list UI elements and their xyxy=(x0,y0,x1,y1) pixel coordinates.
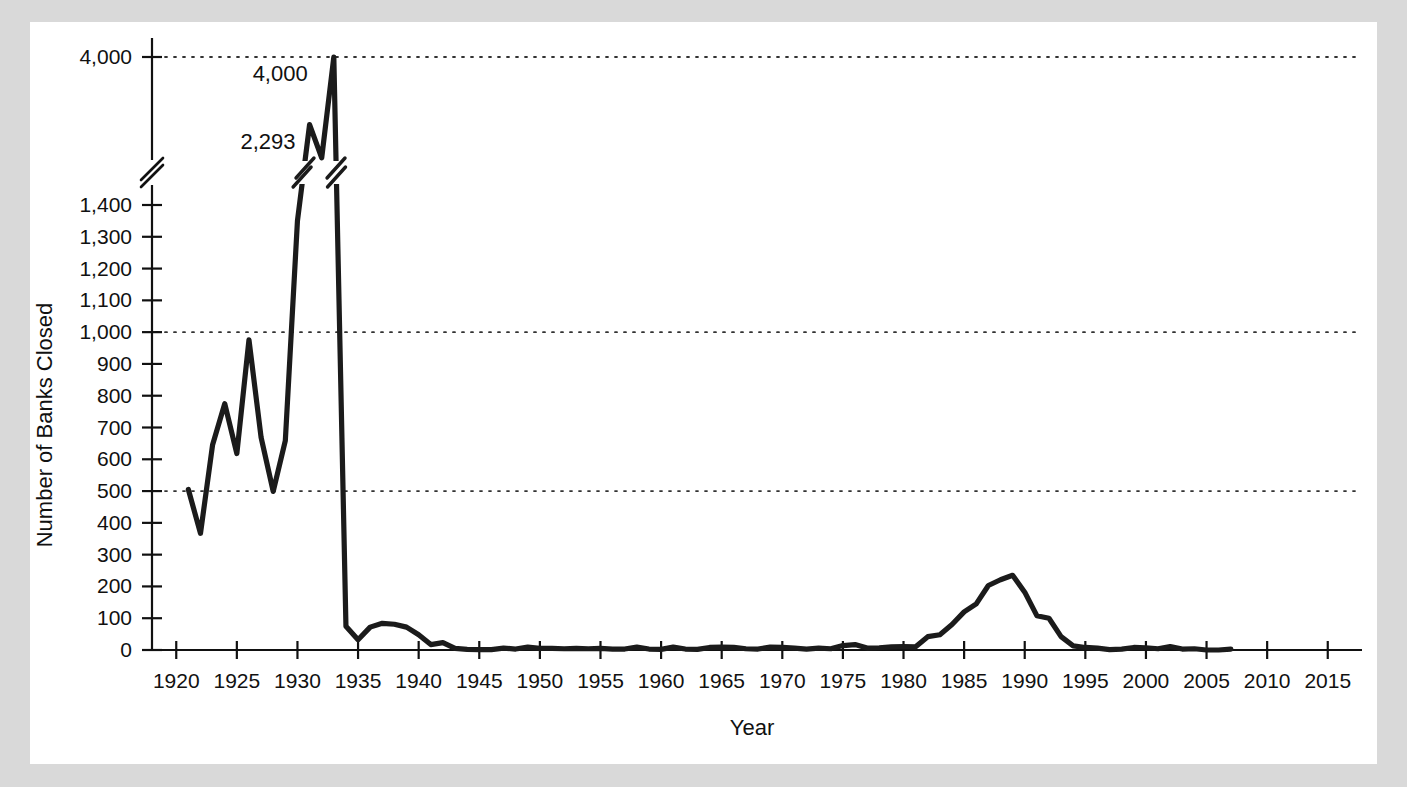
y-tick-label-1200: 1,200 xyxy=(79,257,132,280)
y-tick-label-300: 300 xyxy=(97,543,132,566)
x-tick-label-1950: 1950 xyxy=(517,669,564,692)
x-tick-label-1960: 1960 xyxy=(638,669,685,692)
data-annotations: 4,0002,293 xyxy=(241,61,308,154)
banks-closed-line xyxy=(188,57,1230,650)
annotation-4000: 4,000 xyxy=(253,61,308,86)
y-tick-label-1300: 1,300 xyxy=(79,225,132,248)
x-tick-label-2000: 2000 xyxy=(1123,669,1170,692)
x-tick-label-1985: 1985 xyxy=(941,669,988,692)
x-tick-label-2015: 2015 xyxy=(1304,669,1351,692)
x-tick-label-2010: 2010 xyxy=(1244,669,1291,692)
y-tick-label-100: 100 xyxy=(97,606,132,629)
x-tick-label-2005: 2005 xyxy=(1183,669,1230,692)
figure-container: 01002003004005006007008009001,0001,1001,… xyxy=(0,0,1407,787)
x-tick-label-1970: 1970 xyxy=(759,669,806,692)
bank-closures-line-chart: 01002003004005006007008009001,0001,1001,… xyxy=(0,0,1407,787)
y-axis-title: Number of Banks Closed xyxy=(32,303,57,548)
y-tick-label-500: 500 xyxy=(97,479,132,502)
data-series xyxy=(153,57,1363,650)
x-tick-label-1980: 1980 xyxy=(880,669,927,692)
x-tick-label-1955: 1955 xyxy=(577,669,624,692)
y-tick-label-4000: 4,000 xyxy=(79,45,132,68)
y-tick-label-1000: 1,000 xyxy=(79,320,132,343)
x-tick-label-1965: 1965 xyxy=(698,669,745,692)
x-tick-label-1975: 1975 xyxy=(820,669,867,692)
y-tick-label-1100: 1,100 xyxy=(79,288,132,311)
x-axis-title: Year xyxy=(730,715,774,740)
x-tick-label-1925: 1925 xyxy=(213,669,260,692)
x-tick-label-1945: 1945 xyxy=(456,669,503,692)
x-tick-label-1940: 1940 xyxy=(395,669,442,692)
x-tick-label-1995: 1995 xyxy=(1062,669,1109,692)
y-tick-label-200: 200 xyxy=(97,574,132,597)
axis-break-marks xyxy=(141,158,163,187)
x-tick-label-1935: 1935 xyxy=(335,669,382,692)
y-tick-label-800: 800 xyxy=(97,384,132,407)
x-tick-label-1930: 1930 xyxy=(274,669,321,692)
y-tick-label-400: 400 xyxy=(97,511,132,534)
y-tick-label-0: 0 xyxy=(120,638,132,661)
y-tick-label-700: 700 xyxy=(97,416,132,439)
y-tick-label-1400: 1,400 xyxy=(79,193,132,216)
x-tick-label-1920: 1920 xyxy=(153,669,200,692)
y-axis xyxy=(142,38,162,650)
x-tick-label-1990: 1990 xyxy=(1001,669,1048,692)
x-tick-labels: 1920192519301935194019451950195519601965… xyxy=(153,669,1351,692)
y-tick-label-900: 900 xyxy=(97,352,132,375)
y-tick-label-600: 600 xyxy=(97,447,132,470)
annotation-2293: 2,293 xyxy=(241,129,296,154)
y-tick-labels: 01002003004005006007008009001,0001,1001,… xyxy=(79,45,132,661)
